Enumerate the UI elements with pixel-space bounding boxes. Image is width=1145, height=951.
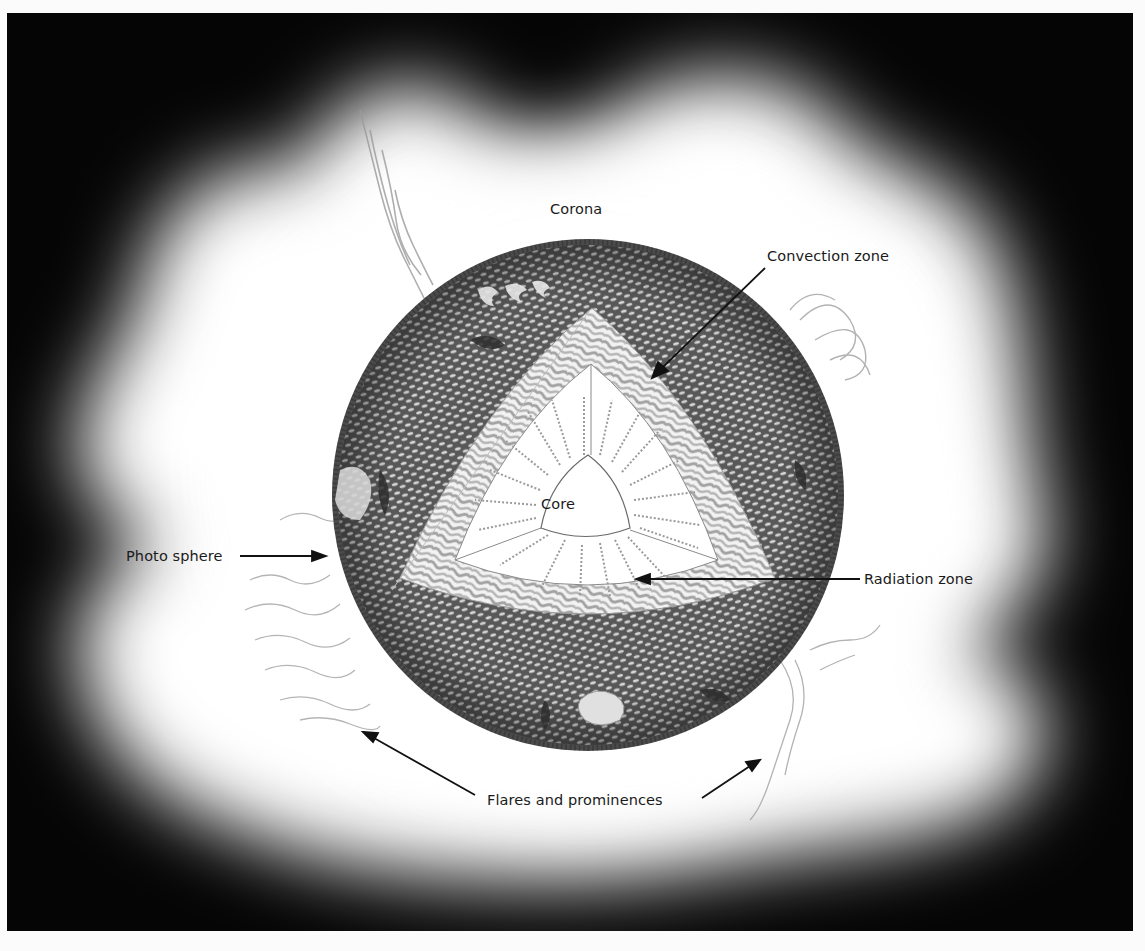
label-corona: Corona bbox=[550, 202, 602, 217]
label-core: Core bbox=[541, 497, 575, 512]
label-flares-prominences: Flares and prominences bbox=[487, 793, 663, 808]
label-radiation-zone: Radiation zone bbox=[864, 572, 973, 587]
sun-structure-diagram bbox=[0, 0, 1145, 951]
label-convection-zone: Convection zone bbox=[767, 249, 889, 264]
label-photosphere: Photo sphere bbox=[126, 549, 223, 564]
